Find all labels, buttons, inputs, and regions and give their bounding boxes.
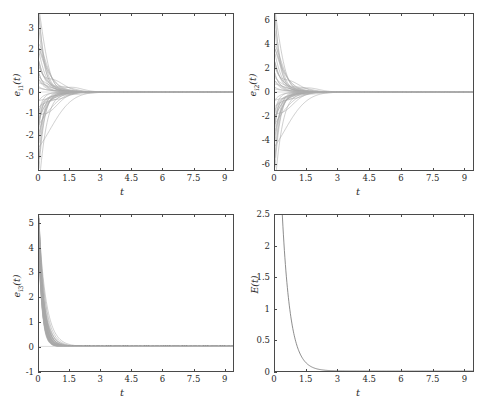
y-tick-mark: [274, 116, 277, 117]
y-tick-label: 0: [12, 88, 34, 97]
y-tick-mark: [274, 92, 277, 93]
y-tick-label: 2.5: [248, 210, 270, 219]
y-tick-label: -6: [248, 160, 270, 169]
trajectory-line: [39, 235, 233, 347]
trajectory-line: [275, 77, 473, 92]
y-tick-label: 3: [12, 268, 34, 277]
trajectory-line: [275, 75, 473, 92]
x-axis-label-E: t: [236, 387, 480, 398]
x-tick-mark: [464, 369, 465, 372]
x-tick-mark-top: [306, 214, 307, 217]
y-tick-mark: [274, 44, 277, 45]
x-tick-mark: [464, 168, 465, 171]
trajectory-line: [275, 92, 473, 127]
trajectory-line: [39, 228, 233, 347]
subplot-E: E(t) t 00.511.522.501.534.567.59: [244, 204, 488, 407]
x-tick-mark: [274, 168, 275, 171]
x-tick-mark: [162, 369, 163, 372]
trajectory-line: [39, 231, 233, 346]
trajectory-line: [39, 14, 233, 92]
x-tick-label: 3: [335, 375, 340, 384]
trajectory-line: [275, 92, 473, 131]
trajectory-line: [275, 92, 473, 158]
trajectory-line: [39, 48, 233, 92]
trajectory-line: [39, 219, 233, 346]
y-tick-label: 6: [248, 16, 270, 25]
x-tick-label: 4.5: [362, 375, 376, 384]
trajectory-line: [39, 239, 233, 347]
trajectory-line: [39, 79, 233, 92]
trajectory-line: [275, 92, 473, 136]
trajectory-line: [39, 92, 233, 125]
trajectory-line: [275, 92, 473, 158]
trajectory-line: [39, 239, 233, 346]
trajectory-line: [39, 17, 233, 92]
trajectory-line: [39, 253, 233, 347]
plot-area-e1: [38, 13, 234, 171]
trajectory-line: [39, 218, 233, 346]
y-tick-label: -1: [12, 368, 34, 377]
x-tick-mark: [225, 369, 226, 372]
trajectory-line: [39, 233, 233, 346]
x-tick-mark: [194, 369, 195, 372]
trajectory-line: [39, 216, 233, 347]
trajectory-line: [39, 92, 233, 159]
trajectory-line: [275, 92, 473, 124]
trajectory-line: [39, 67, 233, 92]
trajectory-line: [39, 92, 233, 147]
y-tick-mark: [274, 246, 277, 247]
y-tick-mark: [38, 223, 41, 224]
x-tick-label: 1.5: [299, 375, 313, 384]
trajectory-line: [39, 233, 233, 346]
y-tick-mark: [274, 372, 277, 373]
x-tick-label: 4.5: [125, 375, 139, 384]
trajectory-line: [39, 250, 233, 347]
x-tick-mark-top: [162, 13, 163, 16]
trajectory-line: [39, 14, 233, 92]
x-tick-mark-top: [131, 214, 132, 217]
trajectory-line: [39, 227, 233, 347]
y-tick-mark: [274, 164, 277, 165]
trajectory-line: [39, 92, 233, 137]
x-tick-mark: [131, 369, 132, 372]
x-tick-mark: [306, 369, 307, 372]
x-tick-label: 7.5: [187, 174, 201, 183]
trajectory-line: [275, 73, 473, 92]
trajectory-line: [39, 226, 233, 346]
trajectory-line: [39, 228, 233, 347]
trajectory-line: [39, 236, 233, 346]
trajectory-line: [39, 241, 233, 347]
y-tick-label: 2: [12, 293, 34, 302]
y-tick-label: 0.5: [248, 336, 270, 345]
trajectory-line: [39, 80, 233, 92]
x-tick-mark: [274, 369, 275, 372]
trajectory-line: [39, 229, 233, 346]
trajectory-line: [39, 238, 233, 347]
energy-line: [275, 215, 473, 371]
plot-area-e2: [274, 13, 474, 171]
y-tick-mark: [274, 277, 277, 278]
trajectory-line: [39, 92, 233, 123]
x-tick-mark: [337, 168, 338, 171]
x-tick-mark: [369, 369, 370, 372]
x-tick-mark-top: [100, 214, 101, 217]
trajectory-line: [275, 92, 473, 119]
y-tick-label: 1.5: [248, 273, 270, 282]
x-axis-label-e1: t: [0, 186, 244, 197]
trajectory-line: [39, 92, 233, 123]
trajectory-line: [275, 49, 473, 92]
y-tick-mark: [38, 113, 41, 114]
x-tick-label: 7.5: [187, 375, 201, 384]
x-tick-mark: [69, 168, 70, 171]
x-axis-label-e3: t: [0, 387, 244, 398]
x-tick-mark: [162, 168, 163, 171]
x-tick-label: 6: [398, 174, 403, 183]
y-tick-label: -3: [12, 152, 34, 161]
trajectory-line: [39, 223, 233, 346]
y-tick-mark: [38, 372, 41, 373]
curve-energy-E: [275, 215, 473, 371]
trajectory-line: [39, 219, 233, 347]
x-tick-mark: [401, 369, 402, 372]
x-tick-label: 1.5: [62, 174, 76, 183]
trajectory-line: [39, 250, 233, 347]
